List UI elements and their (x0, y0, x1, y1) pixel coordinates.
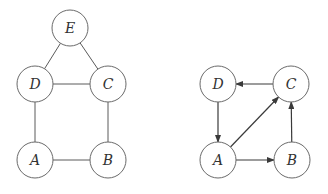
node-label: A (211, 152, 223, 168)
node-label: C (286, 76, 297, 92)
node-label: B (286, 152, 297, 168)
undirected-node-b: B (90, 142, 126, 178)
directed-edge-b-c (291, 102, 292, 142)
undirected-node-c: C (90, 66, 126, 102)
graph-canvas: EDCAB DCAB (0, 0, 328, 194)
undirected-graph-edges (35, 43, 108, 160)
node-label: C (103, 76, 114, 92)
undirected-node-e: E (52, 10, 88, 46)
undirected-edge-e-c (80, 43, 98, 69)
node-label: E (64, 20, 75, 36)
node-label: B (102, 152, 113, 168)
undirected-node-a: A (17, 142, 53, 178)
directed-node-b: B (274, 142, 310, 178)
node-label: D (28, 76, 40, 92)
directed-node-d: D (200, 66, 236, 102)
node-label: D (211, 76, 223, 92)
undirected-node-d: D (17, 66, 53, 102)
directed-edge-a-c (230, 97, 278, 147)
directed-node-c: C (273, 66, 309, 102)
directed-node-a: A (200, 142, 236, 178)
node-label: A (28, 152, 40, 168)
undirected-edge-e-d (45, 43, 61, 68)
undirected-graph-nodes: EDCAB (17, 10, 126, 178)
